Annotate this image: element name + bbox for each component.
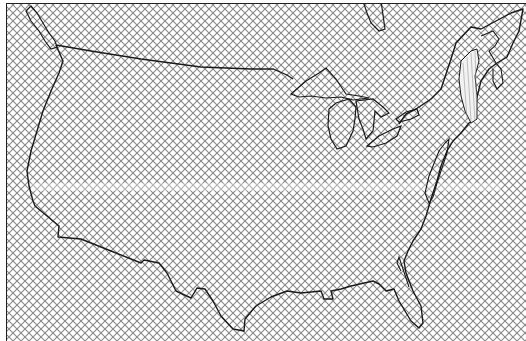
hatch-background (6, 3, 526, 341)
light-band (31, 183, 501, 191)
map-frame (6, 3, 526, 341)
us-map (6, 3, 526, 341)
